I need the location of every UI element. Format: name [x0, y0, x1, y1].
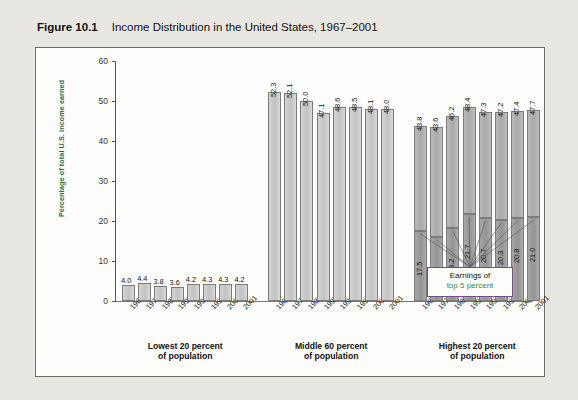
callout-box: Earnings of top 5 percent [427, 267, 513, 297]
bar-value-top5: 20.7 [479, 249, 488, 263]
figure-card: Figure 10.1Income Distribution in the Un… [0, 0, 578, 400]
group-label: Middle 60 percentof population [271, 341, 391, 361]
bar-segment-top5 [430, 127, 443, 237]
figure-number: Figure 10.1 [37, 21, 98, 33]
y-tick-label: 60 [84, 56, 108, 66]
callout-line-2: top 5 percent [428, 281, 512, 290]
group-label-line1: Highest 20 percent [439, 341, 516, 351]
group-label-line1: Lowest 20 percent [148, 341, 223, 351]
bar-value: 48.1 [366, 99, 375, 113]
bar-segment-top5 [463, 107, 476, 214]
bar-value: 4.3 [202, 275, 212, 284]
bar [333, 107, 346, 301]
y-tick-label: 10 [84, 256, 108, 266]
bar-segment-top5 [511, 111, 524, 217]
bar [284, 93, 297, 301]
group-label-line2: of population [304, 351, 358, 361]
bar-value: 4.2 [234, 275, 244, 284]
bar-value: 4.4 [137, 274, 147, 283]
y-tick-label: 20 [84, 216, 108, 226]
y-tick-mark [112, 221, 116, 222]
figure-title: Figure 10.1Income Distribution in the Un… [37, 21, 378, 33]
bar-value: 4.0 [121, 276, 131, 285]
bar-value: 3.8 [153, 277, 163, 286]
bar-value-top5: 17.5 [415, 262, 424, 276]
bar [349, 107, 362, 301]
bar-value: 48.5 [350, 98, 359, 112]
bar [365, 109, 378, 301]
callout-line-1: Earnings of [428, 271, 512, 280]
bar [268, 92, 281, 301]
bar-value: 3.6 [170, 278, 180, 287]
chart-plot-area: Percentage of total U.S. income earned 0… [35, 47, 545, 377]
bar-value: 4.2 [186, 275, 196, 284]
group-label-line1: Middle 60 percent [295, 341, 368, 351]
bar-value-top5: 21.0 [528, 248, 537, 262]
bar-value-top5: 20.8 [512, 248, 521, 262]
y-tick-mark [112, 181, 116, 182]
bar-value-total: 43.8 [415, 116, 424, 130]
bar-value-total: 46.2 [447, 107, 456, 121]
figure-title-text: Income Distribution in the United States… [112, 21, 378, 33]
y-tick-label: 30 [84, 176, 108, 186]
y-tick-label: 0 [84, 296, 108, 306]
bar-value-total: 47.3 [479, 102, 488, 116]
bar [381, 109, 394, 301]
group-label-line2: of population [450, 351, 504, 361]
group-label: Lowest 20 percentof population [125, 341, 245, 361]
bar-value: 48.0 [382, 100, 391, 114]
bar-value-total: 47.2 [496, 103, 505, 117]
bar-segment-top5 [527, 110, 540, 217]
group-label: Highest 20 percentof population [417, 341, 537, 361]
y-tick-mark [112, 101, 116, 102]
bar-value-top5: 21.7 [463, 245, 472, 259]
y-tick-mark [112, 141, 116, 142]
bar-segment-top5 [479, 112, 492, 218]
y-tick-mark [112, 61, 116, 62]
bar-value: 47.1 [317, 103, 326, 117]
bar-value: 52.3 [269, 82, 278, 96]
bar-segment-top5 [495, 112, 508, 220]
bar-value: 52.1 [285, 83, 294, 97]
group-label-line2: of population [158, 351, 212, 361]
bar-value: 4.3 [218, 275, 228, 284]
y-tick-label: 40 [84, 136, 108, 146]
bar-value-total: 47.4 [512, 102, 521, 116]
bar-value-total: 47.7 [528, 101, 537, 115]
bar-value: 50.0 [301, 92, 310, 106]
bar [300, 101, 313, 301]
bar [317, 113, 330, 301]
bar-value-top5: 20.3 [496, 250, 505, 264]
bar-segment-top5 [414, 126, 427, 231]
y-tick-mark [112, 301, 116, 302]
y-axis-title: Percentage of total U.S. income earned [57, 74, 66, 224]
y-tick-mark [112, 261, 116, 262]
bar-value-total: 43.6 [431, 117, 440, 131]
bar-value: 48.6 [333, 97, 342, 111]
y-tick-label: 50 [84, 96, 108, 106]
bar-value-total: 48.4 [463, 98, 472, 112]
bar-segment-top5 [446, 116, 459, 228]
